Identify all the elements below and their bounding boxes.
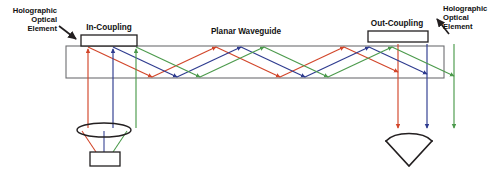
waveguide-diagram: Holographic Optical Element In-Coupling … [0, 0, 504, 174]
hoe-right-label-line1: Holographic [443, 4, 487, 13]
display-source [90, 152, 120, 166]
in-coupling-grating [81, 35, 137, 46]
hoe-left-label-line3: Element [27, 24, 57, 33]
out-coupling-grating [368, 31, 428, 42]
eye-symbol [386, 134, 432, 167]
hoe-right-label: Holographic Optical Element [443, 4, 487, 31]
projector-assembly [77, 123, 131, 166]
eye-cornea-arc [386, 134, 432, 142]
hoe-left-label-line2: Optical [31, 15, 57, 24]
hoe-right-label-line3: Element [443, 22, 473, 31]
hoe-right-label-line2: Optical [443, 13, 469, 22]
eye-body-v [386, 141, 432, 166]
hoe-left-label-line1: Holographic [13, 6, 57, 15]
out-coupling-label: Out-Coupling [371, 19, 423, 28]
hoe-left-pointer-arrow [59, 26, 76, 39]
hoe-left-label: Holographic Optical Element [13, 6, 58, 33]
planar-waveguide-label: Planar Waveguide [211, 27, 282, 36]
in-coupling-label: In-Coupling [86, 23, 131, 32]
